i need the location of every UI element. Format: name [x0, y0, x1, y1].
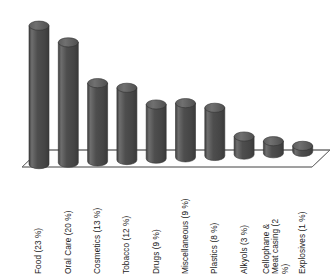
- category-label: Alkyols (3 %): [240, 225, 249, 274]
- category-label: Drugs (9 %): [152, 229, 161, 274]
- category-label: Cosmetics (13 %): [93, 208, 102, 274]
- bar-chart: Food (23 %)Oral Care (20 %)Cosmetics (13…: [0, 0, 331, 279]
- category-label: Tobacco (12 %): [122, 216, 131, 274]
- category-label: Cellophane & Meat casing (2 %): [262, 212, 290, 274]
- category-label: Food (23 %): [34, 228, 43, 274]
- category-label: Plastics (8 %): [210, 223, 219, 274]
- category-label: Oral Care (20 %): [64, 211, 73, 274]
- category-labels: Food (23 %)Oral Care (20 %)Cosmetics (13…: [0, 0, 331, 279]
- category-label: Miscellaneous (9 %): [181, 198, 190, 274]
- category-label: Explosives (1 %): [298, 211, 307, 274]
